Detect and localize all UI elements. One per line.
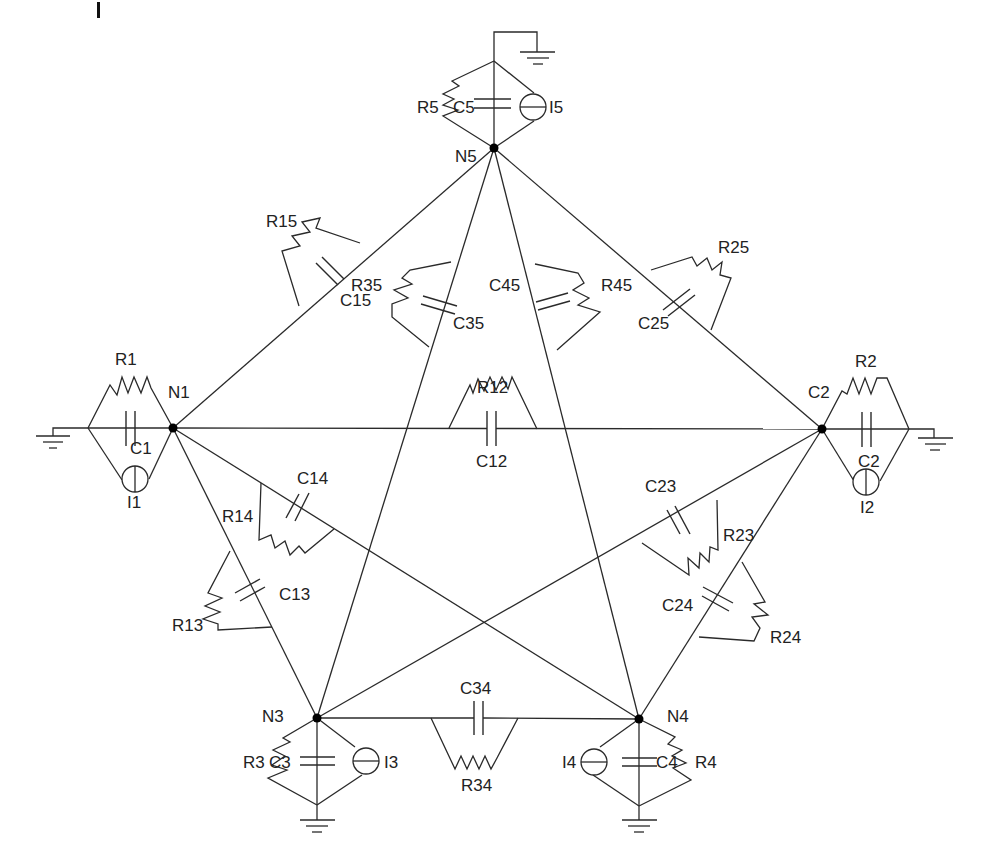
capacitor-c24 [703, 587, 733, 603]
label-r23: R23 [723, 526, 754, 545]
label-r24: R24 [770, 628, 801, 647]
label-r12: R12 [477, 378, 508, 397]
label-r45: R45 [601, 276, 632, 295]
label-r34: R34 [461, 776, 492, 795]
label-c3: C3 [269, 753, 291, 772]
resistor-r2 [822, 378, 909, 429]
label-r13: R13 [172, 616, 203, 635]
label-r2: R2 [855, 352, 877, 371]
label-r3: R3 [243, 753, 265, 772]
resistor-r23 [642, 500, 718, 575]
capacitor-c25 [663, 289, 690, 310]
label-n2: C2 [808, 383, 830, 402]
circuit-diagram: N5 N1 C2 N3 N4 R5 C5 I5 R1 C1 I1 R2 C2 I… [0, 0, 987, 864]
label-r25: R25 [718, 238, 749, 257]
resistor-r13 [203, 551, 272, 630]
label-c14: C14 [297, 469, 328, 488]
label-c25: C25 [638, 314, 669, 333]
capacitor-c45 [536, 293, 568, 302]
wire-n2-n4 [639, 429, 822, 719]
label-c35: C35 [453, 314, 484, 333]
wire-n3-n4-b [483, 718, 639, 719]
label-c45: C45 [489, 276, 520, 295]
wire-n5-n1 [173, 148, 494, 428]
label-i5: I5 [549, 98, 563, 117]
label-n4: N4 [667, 707, 689, 726]
labels: N5 N1 C2 N3 N4 R5 C5 I5 R1 C1 I1 R2 C2 I… [115, 98, 880, 795]
label-i4: I4 [562, 753, 576, 772]
ground-branch-n4 [581, 719, 691, 832]
capacitor-c13 [235, 579, 260, 593]
capacitor-c35 [423, 296, 457, 306]
label-c24: C24 [662, 596, 693, 615]
label-r5: R5 [417, 98, 439, 117]
label-c4: C4 [656, 753, 678, 772]
main-wires [173, 148, 822, 719]
capacitor-c15 [316, 263, 338, 285]
label-c2: C2 [858, 452, 880, 471]
label-r1: R1 [115, 350, 137, 369]
wire-n5-n4 [494, 148, 639, 719]
branch-n4-n5 [535, 264, 600, 350]
label-i2: I2 [860, 498, 874, 517]
branch-n2-n3 [642, 500, 718, 575]
wire-n1-n3 [173, 428, 317, 718]
branch-n1-n3 [203, 551, 272, 630]
label-c13: C13 [279, 585, 310, 604]
label-r14: R14 [222, 507, 253, 526]
label-c12: C12 [476, 452, 507, 471]
wire-n1-n2-b [496, 429, 822, 430]
resistor-r24 [699, 562, 768, 641]
label-c5: C5 [453, 98, 475, 117]
branch-n2-n4 [699, 562, 768, 641]
branch-n3-n4 [431, 701, 518, 769]
label-i3: I3 [384, 753, 398, 772]
node-n1 [169, 424, 178, 433]
label-n3: N3 [262, 707, 284, 726]
label-r4: R4 [695, 753, 717, 772]
wire-n1-n2-a [173, 428, 487, 429]
ground-branch-n3 [268, 718, 379, 832]
label-i1: I1 [127, 493, 141, 512]
label-n1: N1 [168, 383, 190, 402]
ground-branch-n2 [822, 378, 953, 495]
label-c23: C23 [645, 477, 676, 496]
wire-n5-n2 [494, 148, 822, 429]
branch-n1-n4 [259, 483, 334, 555]
node-n4 [635, 715, 644, 724]
node-n3 [313, 714, 322, 723]
node-n2 [818, 425, 827, 434]
label-r15: R15 [266, 212, 297, 231]
ground-branch-n5 [443, 32, 555, 148]
node-n5 [490, 144, 499, 153]
label-c1: C1 [130, 439, 152, 458]
label-n5: N5 [455, 147, 477, 166]
ground-branch-n1 [36, 377, 173, 492]
label-c34: C34 [460, 679, 491, 698]
branch-n3-n5 [392, 262, 457, 347]
label-r35: R35 [351, 276, 382, 295]
resistor-r45 [535, 264, 600, 350]
resistor-r1 [88, 377, 173, 428]
